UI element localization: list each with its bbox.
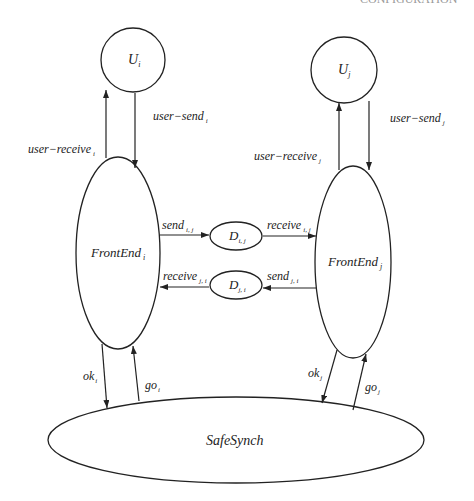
node-frontend-j: FrontEndj (315, 166, 391, 358)
edge-user-receive-i: user−receivei (28, 90, 106, 158)
edge-user-receive-j: user−receivej (254, 103, 339, 170)
node-d-ij: Di, j (210, 222, 262, 250)
svg-text:Dj, i: Dj, i (228, 277, 246, 294)
edge-ok-i: oki (83, 344, 107, 408)
svg-text:FrontEndi: FrontEndi (90, 245, 145, 262)
node-safesynch: SafeSynch (48, 397, 424, 483)
node-d-ji: Dj, i (210, 271, 262, 299)
svg-text:goj: goj (365, 380, 380, 396)
svg-text:Ui: Ui (128, 52, 140, 69)
node-frontend-i: FrontEndi (76, 157, 160, 349)
edge-go-j: goj (353, 354, 380, 410)
svg-text:sendi, j: sendi, j (162, 218, 193, 234)
svg-text:Uj: Uj (338, 62, 351, 79)
svg-text:oki: oki (83, 369, 97, 385)
edge-send-ij: sendi, j (160, 218, 209, 235)
svg-text:user−sendi: user−sendi (153, 109, 208, 125)
svg-text:sendj, i: sendj, i (267, 269, 298, 285)
clipped-header: CONFIGURATION (360, 0, 458, 6)
svg-text:SafeSynch: SafeSynch (206, 433, 264, 448)
node-u-j: Uj (311, 37, 377, 103)
edge-receive-ij: receivei, j (263, 218, 316, 236)
svg-text:user−receivej: user−receivej (254, 149, 321, 165)
system-diagram: CONFIGURATION Ui Uj FrontEndi FrontEndj … (0, 0, 474, 501)
svg-text:user−sendj: user−sendj (390, 111, 445, 127)
svg-text:receivej, i: receivej, i (163, 269, 207, 285)
node-u-i: Ui (101, 28, 165, 92)
edge-send-ji: sendj, i (263, 269, 316, 288)
edge-ok-j: okj (308, 350, 337, 403)
svg-text:okj: okj (308, 366, 322, 382)
svg-text:Di, j: Di, j (228, 228, 246, 245)
svg-text:FrontEndj: FrontEndj (327, 254, 383, 271)
svg-text:goi: goi (145, 378, 160, 394)
edge-user-send-i: user−sendi (135, 93, 208, 168)
edge-go-i: goi (133, 346, 160, 401)
edge-user-send-j: user−sendj (369, 101, 445, 170)
svg-text:user−receivei: user−receivei (28, 142, 95, 158)
edge-receive-ji: receivej, i (160, 269, 209, 287)
svg-text:receivei, j: receivei, j (267, 218, 311, 234)
